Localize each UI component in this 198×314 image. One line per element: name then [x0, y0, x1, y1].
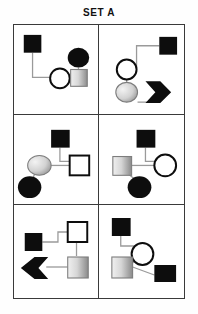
gradient-circle[interactable]	[28, 156, 51, 176]
filled-square[interactable]	[137, 130, 156, 148]
filled-square[interactable]	[51, 130, 70, 148]
gradient-square[interactable]	[68, 257, 89, 278]
open-circle[interactable]	[154, 155, 176, 177]
panel-2[interactable]	[99, 25, 184, 115]
open-circle[interactable]	[50, 69, 70, 89]
gradient-square[interactable]	[112, 257, 133, 278]
filled-circle[interactable]	[18, 176, 41, 198]
open-circle[interactable]	[132, 243, 154, 265]
panel-6-graphic	[99, 205, 184, 298]
page-title: SET A	[0, 7, 198, 18]
gradient-circle[interactable]	[116, 82, 138, 102]
left-arrow-icon[interactable]	[21, 257, 48, 279]
panel-2-graphic	[99, 25, 184, 114]
panel-5[interactable]	[14, 205, 99, 298]
filled-square[interactable]	[24, 35, 42, 53]
panel-1[interactable]	[14, 25, 99, 115]
filled-square[interactable]	[159, 37, 177, 55]
panel-3-graphic	[14, 115, 98, 204]
open-square[interactable]	[70, 156, 90, 176]
diagram-root: SET A	[0, 0, 198, 314]
filled-square[interactable]	[25, 233, 43, 251]
filled-circle[interactable]	[128, 176, 152, 198]
right-arrow-icon[interactable]	[145, 81, 171, 103]
open-circle[interactable]	[117, 60, 137, 80]
panel-5-graphic	[14, 205, 98, 298]
panel-4[interactable]	[99, 115, 184, 205]
gradient-square[interactable]	[113, 157, 132, 176]
panel-1-graphic	[14, 25, 98, 114]
filled-circle[interactable]	[68, 48, 89, 68]
filled-square-2[interactable]	[154, 265, 176, 282]
panel-grid	[13, 24, 185, 299]
filled-square[interactable]	[112, 218, 131, 236]
open-square[interactable]	[68, 222, 88, 242]
panel-4-graphic	[99, 115, 184, 204]
gradient-square[interactable]	[71, 70, 88, 87]
panel-6[interactable]	[99, 205, 184, 298]
panel-3[interactable]	[14, 115, 99, 205]
